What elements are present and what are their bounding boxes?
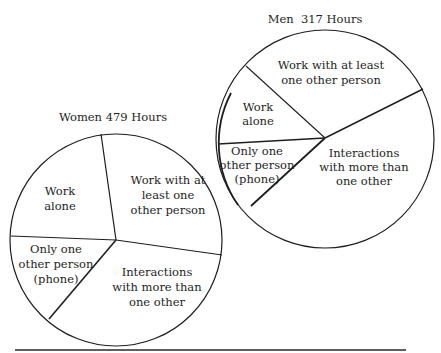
men-slice-interactions: Interactions with more than one other xyxy=(319,146,409,188)
men-chart-title: Men 317 Hours xyxy=(268,12,363,26)
svg-text:other person: other person xyxy=(19,257,94,271)
svg-text:with more than: with more than xyxy=(319,160,409,174)
women-slice-work-with-others: Work with at least one other person xyxy=(131,173,206,217)
svg-text:other person: other person xyxy=(220,158,295,172)
women-slice-work-alone: Work alone xyxy=(44,184,76,213)
svg-text:Work with at least: Work with at least xyxy=(278,58,385,72)
svg-text:Only one: Only one xyxy=(231,144,283,158)
women-chart-title: Women 479 Hours xyxy=(59,110,167,124)
women-pie-chart: Women 479 Hours Work alone Work with at … xyxy=(10,110,222,346)
pie-charts-figure: Women 479 Hours Work alone Work with at … xyxy=(0,0,441,353)
men-pie-chart: Men 317 Hours Work with at least one oth… xyxy=(216,12,434,248)
svg-text:other person: other person xyxy=(131,203,206,217)
svg-text:one other: one other xyxy=(336,174,393,188)
svg-text:(phone): (phone) xyxy=(34,272,79,286)
women-divider-top xyxy=(101,134,116,240)
svg-text:one other person: one other person xyxy=(281,73,381,87)
svg-text:Only one: Only one xyxy=(30,242,82,256)
men-slice-work-with-others: Work with at least one other person xyxy=(278,58,385,87)
men-slice-work-alone: Work alone xyxy=(242,100,274,128)
women-divider-right xyxy=(116,240,222,255)
svg-text:Work: Work xyxy=(45,184,76,198)
svg-text:Work with at: Work with at xyxy=(131,173,206,187)
svg-text:(phone): (phone) xyxy=(235,172,280,186)
svg-text:Interactions: Interactions xyxy=(122,265,193,279)
svg-text:Work: Work xyxy=(243,100,274,114)
svg-text:alone: alone xyxy=(44,199,76,213)
women-divider-left xyxy=(11,236,116,240)
svg-text:alone: alone xyxy=(242,114,274,128)
svg-text:with more than: with more than xyxy=(112,280,202,294)
men-slice-phone: Only one other person (phone) xyxy=(220,144,295,186)
svg-text:one other: one other xyxy=(129,295,186,309)
svg-text:Interactions: Interactions xyxy=(329,146,400,160)
men-divider-right xyxy=(325,89,423,138)
women-slice-interactions: Interactions with more than one other xyxy=(112,265,202,309)
svg-text:least one: least one xyxy=(142,188,195,202)
